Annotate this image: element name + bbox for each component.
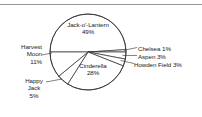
pie-label-cinderella: Cinderella 28% xyxy=(62,62,124,77)
pie-label-cinderella-value: 28% xyxy=(62,69,124,76)
pie-label-cinderella-name: Cinderella xyxy=(62,62,124,69)
pie-label-jack-o-lantern-name: Jack-o'-Lantern xyxy=(48,21,128,28)
pie-label-jack-o-lantern: Jack-o'-Lantern 49% xyxy=(48,21,128,36)
pie-label-aspen: Aspen 3% xyxy=(138,53,200,60)
pie-label-happy-jack: Happy Jack 5% xyxy=(14,77,54,99)
pie-label-jack-o-lantern-value: 49% xyxy=(48,28,128,35)
pie-label-harvest-moon: Harvest Moon 11% xyxy=(2,43,42,65)
pie-label-harvest-moon-value: 11% xyxy=(2,58,42,65)
pie-label-harvest-moon-name-line2: Moon xyxy=(2,50,42,57)
pie-chart-figure: Jack-o'-Lantern 49% Cinderella 28% Harve… xyxy=(0,0,202,117)
pie-label-howden-field: Howden Field 3% xyxy=(134,61,202,68)
pie-label-happy-jack-value: 5% xyxy=(14,92,54,99)
pie-label-chelsea: Chelsea 1% xyxy=(138,45,200,52)
pie-label-happy-jack-name-line1: Happy xyxy=(14,77,54,84)
pie-label-harvest-moon-name-line1: Harvest xyxy=(2,43,42,50)
pie-label-happy-jack-name-line2: Jack xyxy=(14,84,54,91)
